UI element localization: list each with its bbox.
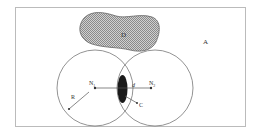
radius-label: R [71,94,75,100]
overlap-label: C [139,102,143,108]
overlap-pointer-dot [136,102,138,104]
radius-end-dot [68,108,70,110]
node-n2-dot [150,87,152,89]
obstacle-label: D [121,31,126,39]
area-label: A [203,38,208,46]
network-coverage-diagram: A D N1 N2 d R C [0,0,258,133]
